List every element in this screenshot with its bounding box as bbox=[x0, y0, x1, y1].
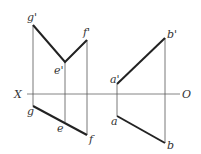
label-f: f bbox=[88, 133, 95, 146]
axis-label-x: X bbox=[13, 88, 23, 101]
label-e: e bbox=[57, 122, 64, 135]
axis-label-o: O bbox=[182, 88, 191, 101]
label-g: g bbox=[27, 105, 34, 118]
label-a-prime: a' bbox=[110, 73, 120, 86]
front-view-polyline-gef bbox=[33, 25, 87, 62]
projection-diagram: X O g' e' f' g e f a' b' a b bbox=[0, 0, 201, 154]
front-view-line-ab bbox=[117, 38, 165, 84]
label-e-prime: e' bbox=[54, 64, 64, 77]
label-b: b bbox=[167, 139, 174, 152]
top-view-line-ab bbox=[117, 116, 165, 143]
label-f-prime: f' bbox=[82, 26, 90, 39]
label-g-prime: g' bbox=[27, 11, 37, 24]
label-b-prime: b' bbox=[167, 28, 177, 41]
label-a: a bbox=[111, 115, 118, 128]
